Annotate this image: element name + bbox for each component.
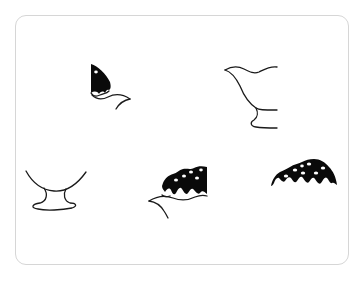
bowl-base-fragment-icon <box>24 168 90 214</box>
puzzle-title: Picture fragments puzzle <box>16 16 17 17</box>
topping-edge-fragment-icon <box>88 62 138 112</box>
topping-sprinkles-fragment-icon <box>147 164 213 220</box>
puzzle-piece-1[interactable]: Piece 1 <box>88 62 138 112</box>
puzzle-piece-2[interactable]: Piece 2 <box>222 64 282 130</box>
puzzle-piece-5[interactable]: Piece 5 <box>268 156 340 192</box>
cup-side-fragment-icon <box>222 64 282 130</box>
puzzle-piece-3[interactable]: Piece 3 <box>24 168 90 214</box>
topping-dome-fragment-icon <box>268 156 340 192</box>
puzzle-piece-4[interactable]: Piece 4 <box>147 164 213 220</box>
puzzle-card: Picture fragments puzzle <box>15 15 349 265</box>
